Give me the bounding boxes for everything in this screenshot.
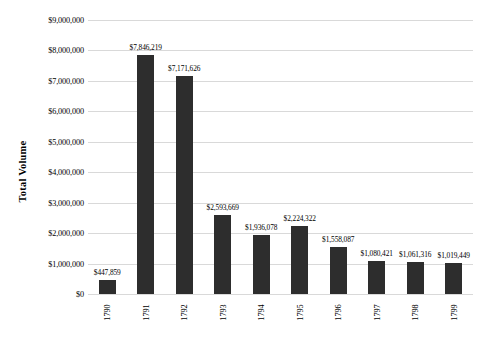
- bar[interactable]: [214, 215, 231, 294]
- bar-group[interactable]: $2,224,322: [291, 20, 308, 294]
- bar-group[interactable]: $1,558,087: [330, 20, 347, 294]
- y-axis-tick-label: $3,000,000: [48, 198, 84, 207]
- bar-value-label: $1,019,449: [438, 251, 470, 260]
- x-axis-tick-label: 1798: [411, 304, 420, 320]
- x-axis-tick-label: 1796: [334, 304, 343, 320]
- y-axis-tick-label: $9,000,000: [48, 16, 84, 25]
- x-axis-tick: 1797: [362, 294, 392, 342]
- x-axis-tick: 1798: [400, 294, 430, 342]
- bar-value-label: $2,593,669: [207, 203, 239, 212]
- x-axis-tick-label: 1799: [449, 304, 458, 320]
- x-axis-tick: 1793: [208, 294, 238, 342]
- bar-value-label: $1,558,087: [322, 235, 354, 244]
- bar[interactable]: [445, 263, 462, 294]
- y-axis-tick-label: $1,000,000: [48, 259, 84, 268]
- x-axis-tick: 1794: [246, 294, 276, 342]
- bar[interactable]: [330, 247, 347, 294]
- bar-value-label: $1,080,421: [361, 249, 393, 258]
- bar-group[interactable]: $7,846,219: [137, 20, 154, 294]
- y-axis-title-label: Total Volume: [18, 140, 29, 202]
- bar[interactable]: [253, 235, 270, 294]
- y-axis-tick-label: $8,000,000: [48, 46, 84, 55]
- bar-chart: Total Volume $0$1,000,000$2,000,000$3,00…: [0, 0, 490, 342]
- bar-group[interactable]: $1,019,449: [445, 20, 462, 294]
- y-axis-tick-label: $7,000,000: [48, 76, 84, 85]
- bar-value-label: $7,171,626: [168, 64, 200, 73]
- x-axis-tick: 1792: [169, 294, 199, 342]
- x-axis-tick-label: 1791: [141, 304, 150, 320]
- y-axis-tick-label: $2,000,000: [48, 229, 84, 238]
- bar[interactable]: [291, 226, 308, 294]
- bar-group[interactable]: $1,936,078: [253, 20, 270, 294]
- y-axis-tick-label: $0: [76, 290, 84, 299]
- x-axis-tick-label: 1797: [372, 304, 381, 320]
- y-axis-tick-label: $4,000,000: [48, 168, 84, 177]
- bar[interactable]: [137, 55, 154, 294]
- bar[interactable]: [407, 262, 424, 294]
- bars: $447,859$7,846,219$7,171,626$2,593,669$1…: [88, 20, 473, 294]
- x-axis-tick-label: 1795: [295, 304, 304, 320]
- bar-group[interactable]: $1,080,421: [368, 20, 385, 294]
- plot-area: $447,859$7,846,219$7,171,626$2,593,669$1…: [88, 20, 473, 294]
- x-axis-tick: 1796: [323, 294, 353, 342]
- bar-group[interactable]: $2,593,669: [214, 20, 231, 294]
- x-axis-tick: 1791: [131, 294, 161, 342]
- y-axis-tick-labels: $0$1,000,000$2,000,000$3,000,000$4,000,0…: [30, 0, 84, 342]
- y-axis-tick-label: $5,000,000: [48, 137, 84, 146]
- bar-value-label: $1,936,078: [245, 223, 277, 232]
- bar-group[interactable]: $447,859: [99, 20, 116, 294]
- y-axis-tick-label: $6,000,000: [48, 107, 84, 116]
- bar[interactable]: [99, 280, 116, 294]
- x-axis-tick: 1799: [439, 294, 469, 342]
- bar-value-label: $2,224,322: [284, 214, 316, 223]
- x-axis-tick: 1790: [92, 294, 122, 342]
- bar-group[interactable]: $7,171,626: [176, 20, 193, 294]
- bar[interactable]: [368, 261, 385, 294]
- x-axis-tick-label: 1794: [257, 304, 266, 320]
- x-axis-tick-label: 1792: [180, 304, 189, 320]
- bar-value-label: $1,061,316: [399, 250, 431, 259]
- x-axis-tick: 1795: [285, 294, 315, 342]
- bar-group[interactable]: $1,061,316: [407, 20, 424, 294]
- x-axis-tick-label: 1790: [103, 304, 112, 320]
- bar-value-label: $447,859: [94, 268, 121, 277]
- bar[interactable]: [176, 76, 193, 294]
- x-axis-tick-label: 1793: [218, 304, 227, 320]
- bar-value-label: $7,846,219: [130, 43, 162, 52]
- x-axis-tick-labels: 1790179117921793179417951796179717981799: [88, 294, 473, 342]
